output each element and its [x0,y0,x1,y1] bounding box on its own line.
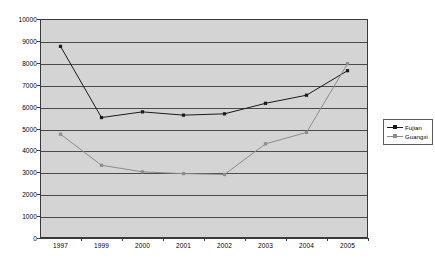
data-point [305,131,308,134]
series-layer [40,19,368,238]
data-point [223,112,226,115]
legend-label: Guangxi [405,133,428,141]
x-axis-tick-label: 2002 [205,242,245,250]
x-axis-tick [204,238,205,241]
data-point [59,45,62,48]
legend-swatch [387,123,403,132]
data-point [346,69,349,72]
line-chart: 1000090008000700060005000400030002000100… [0,0,435,269]
data-point [141,170,144,173]
y-axis-ticks [0,19,40,238]
series-line [61,64,348,175]
data-point [264,142,267,145]
data-point [182,114,185,117]
legend-item: Guangxi [387,132,428,141]
series-line [61,46,348,117]
data-point [305,94,308,97]
data-point [346,62,349,65]
x-axis-tick [327,238,328,241]
x-axis-tick [122,238,123,241]
legend-swatch [387,132,403,141]
x-axis-tick-label: 1997 [41,242,81,250]
legend-item: Fujian [387,123,428,132]
x-axis-labels: 19971999200020012002200320042005 [40,242,368,256]
x-axis-tick [368,238,369,241]
legend-label: Fujian [405,124,422,132]
legend: FujianGuangxi [383,119,433,145]
data-point [264,102,267,105]
data-point [100,164,103,167]
x-axis-tick [163,238,164,241]
data-point [100,116,103,119]
series-fujian [59,45,349,119]
x-axis-tick-label: 2004 [287,242,327,250]
data-point [59,133,62,136]
x-axis-tick [81,238,82,241]
data-point [223,173,226,176]
x-axis-tick-label: 2003 [246,242,286,250]
data-point [141,110,144,113]
x-axis-tick [286,238,287,241]
x-axis-tick-label: 2005 [328,242,368,250]
x-axis-tick-label: 1999 [82,242,122,250]
data-point [182,172,185,175]
x-axis-tick-label: 2000 [123,242,163,250]
x-axis-tick-label: 2001 [164,242,204,250]
x-axis-tick [245,238,246,241]
